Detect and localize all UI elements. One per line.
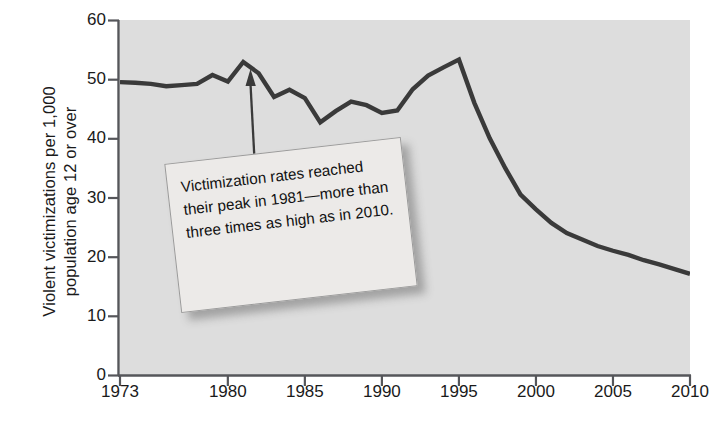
callout-arrowhead: [246, 69, 256, 86]
x-tick-label: 1990: [347, 383, 417, 400]
x-tick-label: 2010: [655, 383, 721, 400]
x-tick-label: 1985: [270, 383, 340, 400]
y-tick-label: 10: [70, 307, 106, 324]
y-tick-label: 20: [70, 248, 106, 265]
callout-annotation: Victimization rates reached their peak i…: [164, 137, 417, 313]
y-tick-label: 30: [70, 189, 106, 206]
y-tick-label: 0: [70, 366, 106, 383]
y-tick-label: 50: [70, 70, 106, 87]
x-tick-label: 2005: [578, 383, 648, 400]
x-tick-label: 1980: [193, 383, 263, 400]
chart-container: Violent victimizations per 1,000 populat…: [0, 0, 721, 434]
x-tick-label: 1973: [85, 383, 155, 400]
x-tick-label: 2000: [501, 383, 571, 400]
y-tick-label: 60: [70, 11, 106, 28]
y-tick-label: 40: [70, 129, 106, 146]
x-tick-label: 1995: [424, 383, 494, 400]
